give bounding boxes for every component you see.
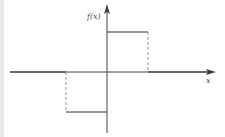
y-axis-label: f(x): [86, 12, 101, 21]
pulse-plot: f(x) x: [0, 0, 225, 137]
x-axis-label: x: [206, 76, 211, 85]
